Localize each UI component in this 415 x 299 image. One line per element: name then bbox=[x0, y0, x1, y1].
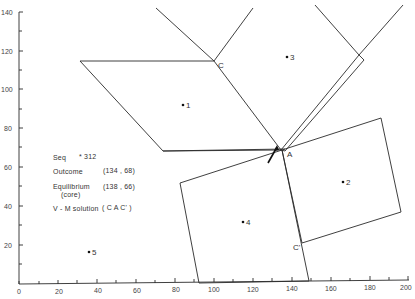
y-tick-60: 60 bbox=[4, 164, 12, 171]
legend-seq-value: * 312 bbox=[79, 153, 96, 160]
legend: Seq * 312 Outcome (134 , 68) Equilibrium… bbox=[53, 153, 135, 212]
vertex-c-prime-label: C' bbox=[293, 243, 301, 252]
y-tick-140: 140 bbox=[1, 9, 13, 16]
y-axis-tick-labels: 140 120 100 80 60 40 20 bbox=[1, 9, 13, 249]
right-square bbox=[282, 118, 401, 243]
x-tick-80: 80 bbox=[172, 286, 180, 293]
line-upper-right-left bbox=[315, 5, 359, 55]
svg-text:3: 3 bbox=[290, 53, 295, 62]
line-c-upper-left bbox=[156, 8, 214, 61]
legend-equilibrium-value: (138 , 66) bbox=[103, 183, 135, 191]
vertex-c-label: C bbox=[218, 61, 224, 70]
svg-text:4: 4 bbox=[246, 218, 251, 227]
point-2: 2 bbox=[342, 178, 351, 187]
x-tick-0: 0 bbox=[17, 288, 21, 295]
x-axis-tick-labels: 0 20 40 60 80 100 120 140 160 180 200 bbox=[17, 284, 412, 295]
line-upper-right-right bbox=[359, 5, 403, 55]
point-3: 3 bbox=[286, 53, 295, 62]
legend-vm-value: ( C A C' ) bbox=[102, 204, 132, 212]
y-tick-20: 20 bbox=[4, 242, 12, 249]
upper-parallelogram bbox=[80, 61, 281, 151]
x-tick-20: 20 bbox=[55, 288, 63, 295]
svg-text:2: 2 bbox=[346, 178, 351, 187]
y-tick-80: 80 bbox=[4, 125, 12, 132]
y-tick-100: 100 bbox=[1, 86, 13, 93]
x-tick-120: 120 bbox=[247, 286, 259, 293]
point-5: 5 bbox=[88, 248, 97, 257]
x-tick-200: 200 bbox=[400, 284, 412, 291]
legend-equilibrium-label: Equilibrium bbox=[53, 183, 90, 191]
x-tick-60: 60 bbox=[133, 287, 141, 294]
y-tick-120: 120 bbox=[1, 48, 13, 55]
svg-text:1: 1 bbox=[186, 101, 191, 110]
legend-outcome-label: Outcome bbox=[53, 168, 83, 175]
line-c-upper-right bbox=[214, 8, 253, 61]
game-theory-diagram: 140 120 100 80 60 40 20 0 20 40 60 bbox=[0, 0, 415, 299]
lower-square bbox=[180, 150, 309, 283]
y-tick-40: 40 bbox=[4, 203, 12, 210]
legend-vm-label: V - M solution bbox=[53, 205, 99, 212]
vertex-a-label: A bbox=[287, 150, 293, 159]
x-tick-100: 100 bbox=[208, 286, 220, 293]
legend-seq-label: Seq bbox=[53, 154, 66, 162]
legend-outcome-value: (134 , 68) bbox=[103, 167, 135, 175]
point-1: 1 bbox=[182, 101, 191, 110]
x-tick-40: 40 bbox=[94, 287, 102, 294]
point-4: 4 bbox=[242, 218, 251, 227]
x-tick-180: 180 bbox=[364, 284, 376, 291]
y-axis bbox=[19, 12, 23, 284]
legend-equilibrium-sub: (core) bbox=[61, 191, 80, 199]
svg-text:5: 5 bbox=[92, 248, 97, 257]
x-tick-160: 160 bbox=[325, 285, 337, 292]
x-tick-140: 140 bbox=[286, 285, 298, 292]
